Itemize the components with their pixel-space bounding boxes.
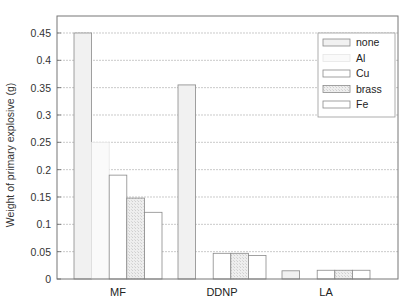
y-tick-label: 0.35 <box>31 82 52 94</box>
bar-brass-mf <box>127 198 145 279</box>
bar-fe-ddnp <box>248 255 266 279</box>
legend-label-none: none <box>356 36 380 48</box>
bar-cu-la <box>317 270 335 279</box>
bar-fe-la <box>352 270 370 279</box>
y-tick-label: 0.45 <box>31 27 52 39</box>
bar-brass-la <box>335 270 353 279</box>
bar-cu-ddnp <box>213 253 231 279</box>
x-category-label: MF <box>110 286 126 298</box>
bar-al-mf <box>92 142 110 279</box>
legend-swatch-brass <box>323 86 350 93</box>
bar-none-la <box>282 271 300 279</box>
bar-fe-mf <box>144 212 162 279</box>
legend-label-brass: brass <box>356 83 382 95</box>
legend-swatch-none <box>323 39 350 46</box>
y-axis: 00.050.10.150.20.250.30.350.40.45 <box>31 27 61 285</box>
y-tick-label: 0.1 <box>36 218 51 230</box>
y-tick-label: 0.2 <box>36 164 51 176</box>
x-category-label: DDNP <box>206 286 237 298</box>
bar-none-mf <box>74 33 92 279</box>
y-tick-label: 0 <box>45 273 51 285</box>
y-tick-label: 0.3 <box>36 109 51 121</box>
legend-label-cu: Cu <box>356 67 370 79</box>
y-tick-label: 0.4 <box>36 54 51 66</box>
bar-cu-mf <box>109 175 127 279</box>
y-tick-label: 0.15 <box>31 191 52 203</box>
bar-brass-ddnp <box>231 253 249 279</box>
legend-label-fe: Fe <box>356 98 368 110</box>
legend-swatch-fe <box>323 101 350 108</box>
x-category-label: LA <box>319 286 333 298</box>
legend: noneAlCubrassFe <box>318 33 395 117</box>
y-axis-title: Weight of primary explosive (g) <box>4 83 16 228</box>
bar-none-ddnp <box>178 85 196 279</box>
legend-swatch-cu <box>323 70 350 77</box>
legend-swatch-al <box>323 55 350 62</box>
y-tick-label: 0.05 <box>31 246 52 258</box>
legend-label-al: Al <box>356 52 365 64</box>
y-tick-label: 0.25 <box>31 136 52 148</box>
bar-chart: 00.050.10.150.20.250.30.350.40.45 MFDDNP… <box>0 0 412 305</box>
x-axis: MFDDNPLA <box>110 286 333 298</box>
